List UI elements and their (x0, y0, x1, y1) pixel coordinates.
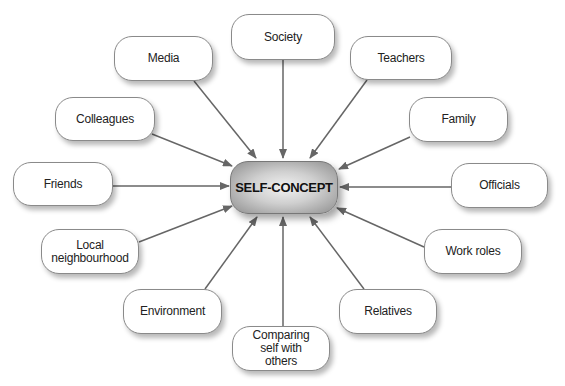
node-media: Media (114, 36, 213, 81)
node-friends: Friends (13, 162, 113, 206)
arrow-media (194, 81, 256, 158)
node-label: Friends (44, 178, 83, 191)
arrow-work-roles (337, 208, 424, 247)
arrow-local (139, 206, 232, 242)
node-family: Family (409, 97, 508, 142)
node-label: Local neighbourhood (51, 239, 128, 265)
self-concept-diagram: Media Society Teachers Family Colleagues… (0, 0, 565, 386)
node-label: Work roles (445, 245, 500, 258)
node-teachers: Teachers (350, 36, 452, 80)
node-label: Officials (479, 179, 520, 192)
arrow-colleagues (152, 134, 232, 166)
node-colleagues: Colleagues (55, 97, 155, 141)
node-society: Society (231, 14, 335, 60)
arrow-teachers (310, 80, 367, 158)
node-work-roles: Work roles (424, 229, 522, 274)
node-label: Relatives (364, 305, 412, 318)
node-label: Teachers (377, 52, 424, 65)
node-relatives: Relatives (339, 289, 437, 334)
node-label: Comparing self with others (253, 329, 310, 368)
node-local-neighbourhood: Local neighbourhood (41, 229, 139, 274)
node-environment: Environment (123, 289, 222, 334)
node-label: Media (148, 52, 180, 65)
center-node-self-concept: SELF-CONCEPT (230, 161, 338, 214)
node-label: Environment (140, 305, 205, 318)
node-label: Society (264, 31, 302, 44)
arrow-environment (205, 217, 257, 289)
node-label: Colleagues (76, 113, 134, 126)
node-officials: Officials (451, 163, 548, 208)
arrow-relatives (310, 217, 364, 289)
arrow-family (339, 137, 410, 169)
node-label: Family (441, 113, 475, 126)
node-comparing-self-with-others: Comparing self with others (232, 326, 330, 371)
center-label: SELF-CONCEPT (235, 180, 333, 195)
